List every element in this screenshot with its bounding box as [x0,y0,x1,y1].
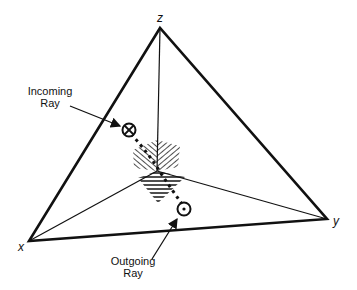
corner-cube-diagram: z x y Incoming Ray Outgoing Ray [0,0,357,290]
incoming-ray-label-line1: Incoming [22,85,78,97]
incoming-arrow [70,106,120,126]
outgoing-ray-label-line2: Ray [105,267,161,279]
z-axis-label: z [154,12,166,24]
incoming-ray-label: Incoming Ray [22,85,78,109]
outgoing-ray-icon [178,203,191,216]
y-axis-label: y [330,215,342,227]
outgoing-ray-label: Outgoing Ray [105,255,161,279]
outgoing-ray-label-line1: Outgoing [105,255,161,267]
outgoing-arrow [152,219,177,259]
diagram-canvas [0,0,357,290]
incoming-ray-label-line2: Ray [22,97,78,109]
x-axis-label: x [15,241,27,253]
incoming-ray-icon [123,124,136,137]
